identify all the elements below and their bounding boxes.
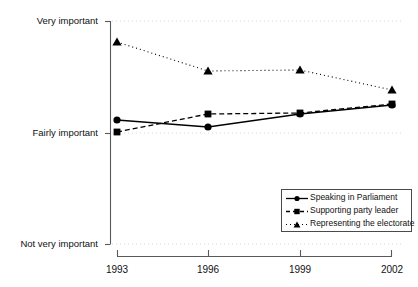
x-tick-label-2002: 2002 xyxy=(368,264,416,275)
legend-item-representing-the-electorate: Representing the electorate xyxy=(284,217,411,230)
x-tick-label-1993: 1993 xyxy=(93,264,141,275)
legend-label-supporting-party-leader: Supporting party leader xyxy=(310,204,398,217)
series-representing-the-electorate xyxy=(112,38,396,94)
y-tick-label-not-very-important: Not very important xyxy=(0,239,98,249)
y-tick-label-very-important: Very important xyxy=(0,16,98,26)
x-tick-label-1999: 1999 xyxy=(276,264,324,275)
series-speaking-in-parliament xyxy=(113,101,395,130)
y-tick-label-fairly-important: Fairly important xyxy=(0,128,98,138)
legend-marker-circle-solid-icon xyxy=(284,191,310,204)
legend-marker-triangle-dotted-icon xyxy=(284,217,310,230)
legend-label-speaking-in-parliament: Speaking in Parliament xyxy=(310,191,397,204)
x-tick-label-1996: 1996 xyxy=(184,264,232,275)
x-axis xyxy=(117,250,392,257)
chart-legend: Speaking in Parliament Supporting party … xyxy=(281,189,412,232)
legend-marker-square-dashed-icon xyxy=(284,204,310,217)
legend-item-supporting-party-leader: Supporting party leader xyxy=(284,204,411,217)
legend-item-speaking-in-parliament: Speaking in Parliament xyxy=(284,191,411,204)
y-axis xyxy=(105,21,111,245)
series-supporting-party-leader xyxy=(114,101,396,136)
line-chart: Very important Fairly important Not very… xyxy=(0,0,418,287)
legend-label-representing-the-electorate: Representing the electorate xyxy=(310,217,414,230)
